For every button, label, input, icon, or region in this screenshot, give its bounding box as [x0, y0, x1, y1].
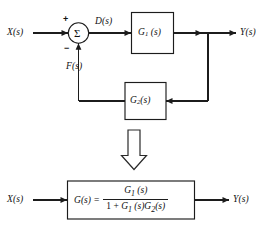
- feedback-block-g: G: [130, 95, 137, 105]
- numerator-arg: (s): [137, 185, 147, 195]
- denominator-plus: +: [113, 201, 118, 211]
- feedback-signal-label: F(s): [66, 62, 82, 72]
- denominator-term2-arg: (s): [155, 201, 165, 211]
- downward-double-arrow: [122, 130, 147, 170]
- equation-numerator: G1 (s): [120, 186, 151, 200]
- feedback-block-arg: (s): [140, 95, 150, 105]
- forward-block-g: G: [138, 27, 145, 37]
- error-signal-arrowhead: [125, 30, 132, 36]
- denominator-one: 1: [106, 201, 111, 211]
- input-arrowhead-bottom: [61, 197, 68, 203]
- denominator-term1-subscript: 1: [128, 205, 132, 214]
- transfer-function-equation: G(s) = G1 (s) 1 + G1 (s)G2(s): [74, 186, 168, 214]
- sigma-symbol: Σ: [74, 28, 80, 39]
- denominator-term1-arg: (s): [134, 201, 144, 211]
- error-signal-label: D(s): [95, 17, 112, 27]
- input-label-top: X(s): [7, 28, 23, 38]
- numerator-subscript: 1: [131, 188, 135, 197]
- block-diagram-figure: X(s) + Σ − D(s) F(s) G1 (s) G2(s) Y(s) X…: [0, 0, 274, 232]
- equation-equals-sign: =: [94, 195, 99, 205]
- forward-block-label: G1 (s): [138, 28, 161, 38]
- input-arrowhead-top: [62, 30, 69, 36]
- denominator-term1-g: G: [121, 201, 128, 211]
- feedback-arrowhead-into-sum: [76, 43, 82, 50]
- equation-lhs: G(s): [74, 195, 91, 205]
- plus-sign: +: [63, 15, 68, 24]
- forward-block-subscript: 1: [145, 30, 148, 37]
- feedback-into-g2-arrowhead: [166, 98, 173, 104]
- equation-fraction: G1 (s) 1 + G1 (s)G2(s): [103, 186, 168, 215]
- feedback-block-label: G2(s): [130, 96, 151, 106]
- numerator-g: G: [124, 185, 131, 195]
- equation-lhs-arg: (s): [81, 195, 91, 205]
- output-arrowhead-bottom: [223, 197, 230, 203]
- output-label-bottom: Y(s): [233, 195, 249, 205]
- minus-sign: −: [64, 44, 69, 53]
- output-label-top: Y(s): [240, 28, 256, 38]
- forward-output-arrowhead: [196, 30, 203, 36]
- output-arrowhead-top: [230, 30, 237, 36]
- forward-block-arg: (s): [151, 27, 161, 37]
- equation-lhs-g: G: [74, 195, 81, 205]
- equation-denominator: 1 + G1 (s)G2(s): [103, 199, 168, 214]
- input-label-bottom: X(s): [7, 195, 23, 205]
